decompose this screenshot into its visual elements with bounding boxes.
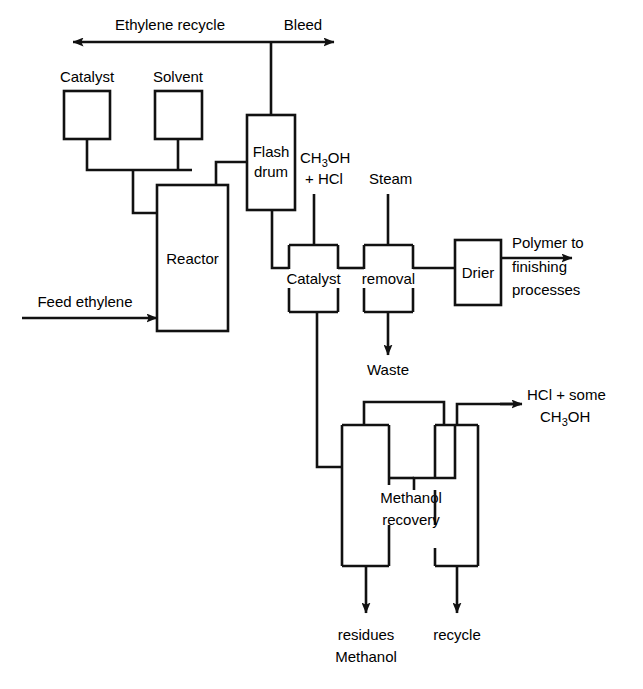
stream-removal-to-methanol-recovery bbox=[317, 312, 342, 467]
unit-catalyst-removal-vessel-1[interactable]: Catalyst bbox=[286, 245, 341, 312]
unit-solvent-tank[interactable] bbox=[155, 91, 202, 139]
stream-column1-overhead-to-column2 bbox=[364, 402, 444, 425]
label-plus-hcl: + HCl bbox=[305, 170, 343, 187]
label-polymer-line-2: finishing bbox=[512, 258, 567, 275]
unit-catalyst-tank[interactable] bbox=[64, 91, 110, 139]
label-feed-ethylene: Feed ethylene bbox=[37, 293, 132, 310]
svg-text:CH3OH: CH3OH bbox=[300, 149, 350, 169]
stream-flashdrum-to-catalyst-removal bbox=[272, 210, 289, 268]
unit-methanol-recovery-column-1[interactable]: Methanol bbox=[342, 425, 442, 566]
label-waste: Waste bbox=[367, 361, 409, 378]
flash-drum-label-line-2: drum bbox=[254, 163, 288, 180]
unit-catalyst-removal-vessel-2[interactable]: removal bbox=[362, 245, 415, 312]
label-catalyst-residues-line-1: residues bbox=[338, 626, 395, 643]
svg-text:CH3OH: CH3OH bbox=[540, 408, 590, 428]
label-methanol-hcl-inlet: CH3OH + HCl bbox=[300, 149, 350, 187]
label-polymer-line-1: Polymer to bbox=[512, 234, 584, 251]
unit-reactor[interactable]: Reactor bbox=[157, 185, 228, 331]
label-methanol-recycle-line-1: recycle bbox=[433, 626, 481, 643]
stream-catalyst-solvent-into-reactor bbox=[133, 170, 157, 213]
label-bleed: Bleed bbox=[284, 16, 322, 33]
methanol-recovery-label-part-1: Methanol bbox=[380, 489, 442, 506]
stream-catalyst-to-reactor bbox=[87, 139, 192, 170]
catalyst-removal-label-part-1: Catalyst bbox=[286, 270, 341, 287]
flash-drum-label-line-1: Flash bbox=[253, 143, 290, 160]
label-ethylene-recycle: Ethylene recycle bbox=[115, 16, 225, 33]
pfd-canvas: Reactor Flash drum bbox=[0, 0, 643, 689]
drier-label: Drier bbox=[462, 264, 495, 281]
process-flow-diagram: Reactor Flash drum bbox=[0, 0, 643, 689]
label-catalyst-residues-line-2: Methanol bbox=[335, 648, 397, 665]
label-hcl-some-line-1: HCl + some bbox=[527, 386, 606, 403]
label-steam: Steam bbox=[369, 170, 412, 187]
solvent-tank-label: Solvent bbox=[153, 68, 204, 85]
unit-flash-drum[interactable]: Flash drum bbox=[247, 115, 295, 210]
label-hcl-some-line-2: CH3OH bbox=[540, 408, 590, 428]
reactor-label: Reactor bbox=[166, 250, 219, 267]
hcl-ch3oh-oh: OH bbox=[568, 408, 591, 425]
hcl-ch3oh-c: CH bbox=[540, 408, 562, 425]
stream-column2-overhead-hcl bbox=[457, 404, 522, 425]
methanol-recovery-label-part-2: recovery bbox=[382, 511, 440, 528]
ch3oh-oh: OH bbox=[328, 149, 351, 166]
ch3oh-c: CH bbox=[300, 149, 322, 166]
catalyst-removal-label-part-2: removal bbox=[362, 270, 415, 287]
catalyst-tank-label: Catalyst bbox=[60, 68, 115, 85]
label-polymer-line-3: processes bbox=[512, 281, 580, 298]
unit-drier[interactable]: Drier bbox=[455, 240, 501, 305]
stream-reactor-to-flash-drum bbox=[216, 162, 247, 185]
